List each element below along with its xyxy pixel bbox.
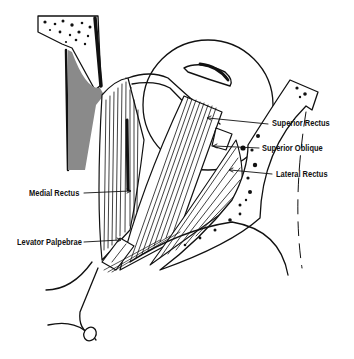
dashed-boundary-line xyxy=(298,112,306,268)
orbit-illustration xyxy=(0,0,354,359)
label-medial-rectus: Medial Rectus xyxy=(29,188,79,198)
label-lateral-rectus: Lateral Rectus xyxy=(276,169,328,179)
anatomical-figure: Superior Rectus Superior Oblique Lateral… xyxy=(0,0,354,359)
medial-orbital-wall xyxy=(38,16,104,170)
label-levator-palpebrae: Levator Palpebrae xyxy=(17,237,82,247)
label-superior-oblique: Superior Oblique xyxy=(262,143,323,153)
label-superior-rectus: Superior Rectus xyxy=(272,118,330,128)
